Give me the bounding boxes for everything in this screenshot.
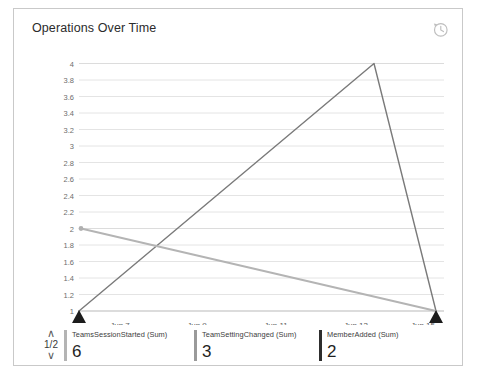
legend-item-teams-session-started[interactable]: TeamsSessionStarted (Sum) 6 [64, 329, 167, 365]
y-tick: 1.8 [64, 241, 74, 250]
x-tick: Jun 13 [344, 321, 369, 325]
legend-item-value: 3 [202, 341, 296, 362]
y-tick: 4 [70, 60, 74, 69]
legend-items: TeamsSessionStarted (Sum) 6 TeamSettingC… [64, 327, 460, 367]
legend-pager-up-chevron-icon[interactable]: ∧ [38, 329, 64, 338]
y-tick: 3.8 [64, 76, 74, 85]
y-tick: 1 [70, 307, 74, 316]
legend-item-label: TeamsSessionStarted (Sum) [72, 329, 167, 340]
x-axis-tick-labels: Jun 7 Jun 9 Jun 11 Jun 13 Jun 15 [110, 321, 435, 325]
history-clock-icon[interactable] [431, 20, 450, 39]
x-tick: Jun 11 [264, 321, 288, 325]
operations-over-time-card: Operations Over Time [13, 8, 463, 366]
y-tick: 1.2 [64, 291, 74, 300]
chart-plot-area: 4 3.8 3.6 3.4 3.2 3 2.8 2.6 2.4 2.2 2 1.… [14, 45, 464, 325]
x-tick: Jun 7 [110, 321, 130, 325]
y-axis-gridlines [79, 64, 444, 312]
legend-swatch [319, 330, 322, 361]
y-axis-tick-labels: 4 3.8 3.6 3.4 3.2 3 2.8 2.6 2.4 2.2 2 1.… [64, 60, 74, 317]
y-tick: 2 [70, 225, 74, 234]
end-range-marker-icon[interactable] [429, 310, 443, 323]
line-chart: 4 3.8 3.6 3.4 3.2 3 2.8 2.6 2.4 2.2 2 1.… [14, 45, 464, 325]
series-line-team-setting-changed [79, 64, 436, 312]
legend-swatch [64, 330, 67, 361]
start-range-marker-icon[interactable] [72, 310, 86, 323]
legend-item-label: TeamSettingChanged (Sum) [202, 329, 296, 340]
chart-legend: ∧ 1/2 ∨ TeamsSessionStarted (Sum) 6 Team… [14, 327, 464, 367]
legend-pager-down-chevron-icon[interactable]: ∨ [38, 351, 64, 360]
legend-item-team-setting-changed[interactable]: TeamSettingChanged (Sum) 3 [194, 329, 296, 365]
y-tick: 3.6 [64, 93, 74, 102]
y-tick: 3.4 [64, 109, 74, 118]
y-tick: 1.6 [64, 258, 74, 267]
series-point-teams-session-started-start [79, 226, 84, 231]
legend-item-value: 6 [72, 341, 167, 362]
y-tick: 2.4 [64, 192, 74, 201]
legend-item-label: MemberAdded (Sum) [327, 329, 399, 340]
y-tick: 3.2 [64, 126, 74, 135]
series-line-teams-session-started [81, 229, 436, 312]
y-tick: 1.4 [64, 274, 74, 283]
page-title: Operations Over Time [32, 21, 156, 35]
y-tick: 2.6 [64, 175, 74, 184]
x-tick: Jun 9 [187, 321, 207, 325]
legend-swatch [194, 330, 197, 361]
legend-pager[interactable]: ∧ 1/2 ∨ [38, 329, 64, 367]
y-tick: 2.2 [64, 208, 74, 217]
legend-item-value: 2 [327, 341, 399, 362]
legend-item-member-added[interactable]: MemberAdded (Sum) 2 [319, 329, 399, 365]
screenshot-root: Operations Over Time [0, 0, 477, 380]
y-tick: 3 [70, 142, 74, 151]
y-tick: 2.8 [64, 159, 74, 168]
